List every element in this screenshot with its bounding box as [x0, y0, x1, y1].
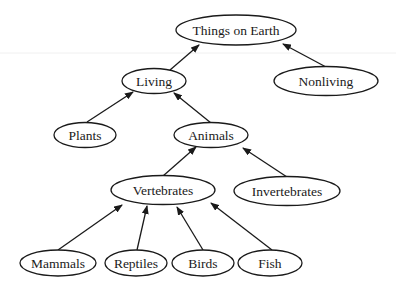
diagram-canvas: Things on EarthLivingNonlivingPlantsAnim…: [0, 0, 396, 289]
arrow-nonliving-to-things: [283, 44, 326, 67]
node-label: Birds: [188, 256, 217, 271]
tree-diagram: Things on EarthLivingNonlivingPlantsAnim…: [0, 0, 396, 289]
node-birds: Birds: [172, 250, 234, 276]
node-animals: Animals: [174, 123, 248, 148]
node-label: Reptiles: [114, 256, 158, 271]
node-label: Fish: [258, 256, 282, 271]
node-label: Nonliving: [299, 74, 354, 89]
node-mammals: Mammals: [20, 250, 96, 276]
node-label: Mammals: [31, 256, 85, 271]
node-plants: Plants: [54, 123, 116, 148]
arrow-birds-to-vertebrates: [177, 207, 203, 250]
node-nonliving: Nonliving: [274, 67, 378, 96]
node-living: Living: [122, 69, 186, 94]
node-things: Things on Earth: [176, 15, 296, 45]
arrow-fish-to-vertebrates: [211, 203, 272, 250]
node-reptiles: Reptiles: [105, 250, 167, 276]
arrow-mammals-to-vertebrates: [58, 205, 122, 250]
node-label: Invertebrates: [252, 184, 322, 199]
node-vertebrates: Vertebrates: [111, 176, 215, 205]
arrow-reptiles-to-vertebrates: [137, 206, 147, 250]
node-label: Things on Earth: [193, 23, 280, 38]
node-invertebrates: Invertebrates: [234, 177, 340, 206]
node-label: Animals: [188, 128, 234, 143]
arrow-animals-to-living: [174, 93, 211, 123]
node-label: Living: [136, 74, 172, 89]
node-label: Plants: [68, 128, 101, 143]
node-fish: Fish: [238, 250, 302, 276]
arrow-vertebrates-to-animals: [163, 147, 196, 176]
arrow-plants-to-living: [87, 92, 133, 122]
nodes-group: Things on EarthLivingNonlivingPlantsAnim…: [20, 15, 378, 276]
arrow-living-to-things: [170, 45, 199, 70]
arrow-invertebrates-to-animals: [243, 148, 287, 177]
node-label: Vertebrates: [133, 183, 194, 198]
